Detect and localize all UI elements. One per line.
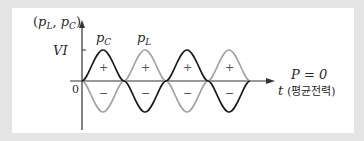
y-label-sub2: C	[69, 21, 76, 31]
sign-plus-2: +	[141, 62, 150, 73]
pc-curve-label: pC	[96, 31, 111, 47]
y-label-sep: ,	[52, 14, 60, 29]
sign-minus-3: −	[183, 88, 192, 99]
y-axis-label: (pL, pC)	[33, 15, 81, 31]
paren-close: )	[76, 14, 81, 29]
sign-minus-2: −	[141, 88, 150, 99]
sign-minus-1: −	[99, 88, 108, 99]
x-axis-label: t (평균전력)	[278, 84, 336, 97]
x-axis-arrow-icon	[266, 78, 275, 84]
x-label-var: t	[278, 83, 283, 98]
pc-sub: C	[104, 37, 111, 47]
vi-tick-label: VI	[53, 44, 68, 57]
pl-sub: L	[145, 37, 151, 47]
average-power-label: P = 0	[291, 68, 327, 81]
x-label-note: (평균전력)	[287, 85, 336, 98]
sign-plus-1: +	[99, 62, 108, 73]
pl-curve-label: pL	[137, 31, 151, 47]
y-label-var2: p	[61, 14, 69, 29]
sign-plus-3: +	[183, 62, 192, 73]
sign-minus-4: −	[225, 88, 234, 99]
origin-label: 0	[72, 84, 79, 95]
sign-plus-4: +	[225, 62, 234, 73]
